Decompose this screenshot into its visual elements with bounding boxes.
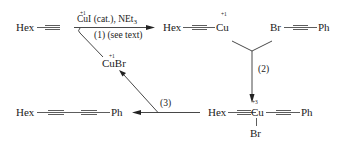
br-label: Br	[270, 21, 281, 33]
step2-right-branch	[252, 41, 272, 51]
hex-label: Hex	[208, 106, 227, 118]
arrowhead-icon	[132, 110, 141, 115]
ph-label: Ph	[111, 106, 123, 118]
triple-bond	[192, 26, 207, 30]
triple-bond	[237, 111, 251, 115]
ph-label: Ph	[318, 21, 330, 33]
triple-bond	[276, 111, 291, 115]
step3-label: (3)	[160, 98, 171, 109]
triple-bond	[45, 26, 60, 30]
cubr-label: CuBr	[102, 57, 126, 69]
step2-arrow: (2)	[232, 41, 272, 103]
step3-arrow: (3)	[119, 70, 200, 115]
step1-label: (1) (see text)	[94, 30, 143, 41]
triple-bond	[293, 26, 308, 30]
hex-label: Hex	[16, 106, 35, 118]
cu-label: Cu	[216, 21, 229, 33]
cu-oxidation-state: +3	[252, 99, 258, 105]
step2-left-branch	[232, 41, 252, 51]
cu-label: Cu	[251, 106, 264, 118]
diyne-product: Hex Ph	[16, 106, 123, 118]
copper-iii-complex: Hex +3 Cu Ph Br	[208, 99, 313, 139]
step1-arrow: +1 CuI (cat.), NEt3 (1) (see text)	[74, 10, 155, 57]
arrowhead-icon	[146, 25, 155, 30]
bromoalkyne: Br Ph	[270, 21, 330, 33]
triple-bond	[48, 111, 64, 115]
reaction-scheme: Hex +1 CuI (cat.), NEt3 (1) (see text) +…	[0, 0, 352, 143]
copper-acetylide: Hex +1 Cu	[163, 11, 229, 33]
cubr-species: +1 CuBr	[102, 53, 126, 69]
hex-label: Hex	[16, 21, 35, 33]
step2-label: (2)	[258, 64, 269, 75]
starting-alkyne: Hex	[16, 21, 60, 33]
cubr-return-branch	[124, 75, 158, 113]
ph-label: Ph	[301, 106, 313, 118]
br-label: Br	[250, 127, 261, 139]
triple-bond	[81, 111, 97, 115]
step1-reagent-label: CuI (cat.), NEt3	[77, 14, 137, 26]
cu-oxidation-state: +1	[221, 11, 227, 17]
hex-label: Hex	[163, 21, 182, 33]
